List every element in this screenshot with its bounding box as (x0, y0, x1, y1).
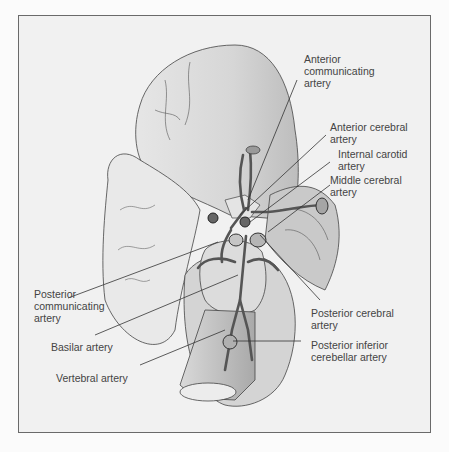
label-vertebral-artery: Vertebral artery (56, 372, 128, 384)
label-posterior-inferior-cerebellar-artery: Posterior inferior cerebellar artery (311, 339, 388, 363)
internal-carotid-right (240, 217, 250, 227)
label-middle-cerebral-artery: Middle cerebral artery (330, 174, 402, 198)
anterior-communicating-node (246, 146, 260, 154)
label-anterior-cerebral-artery: Anterior cerebral artery (330, 121, 408, 145)
label-basilar-artery: Basilar artery (51, 341, 113, 353)
middle-cerebral-node (316, 198, 328, 214)
label-posterior-communicating-artery: Posterior communicating artery (34, 288, 105, 324)
spinal-cord-section (180, 383, 236, 401)
label-posterior-cerebral-artery: Posterior cerebral artery (311, 307, 394, 331)
label-internal-carotid-artery: Internal carotid artery (338, 148, 407, 172)
internal-carotid-left (208, 213, 218, 223)
brain-illustration (0, 0, 449, 452)
label-anterior-communicating-artery: Anterior communicating artery (304, 53, 375, 89)
